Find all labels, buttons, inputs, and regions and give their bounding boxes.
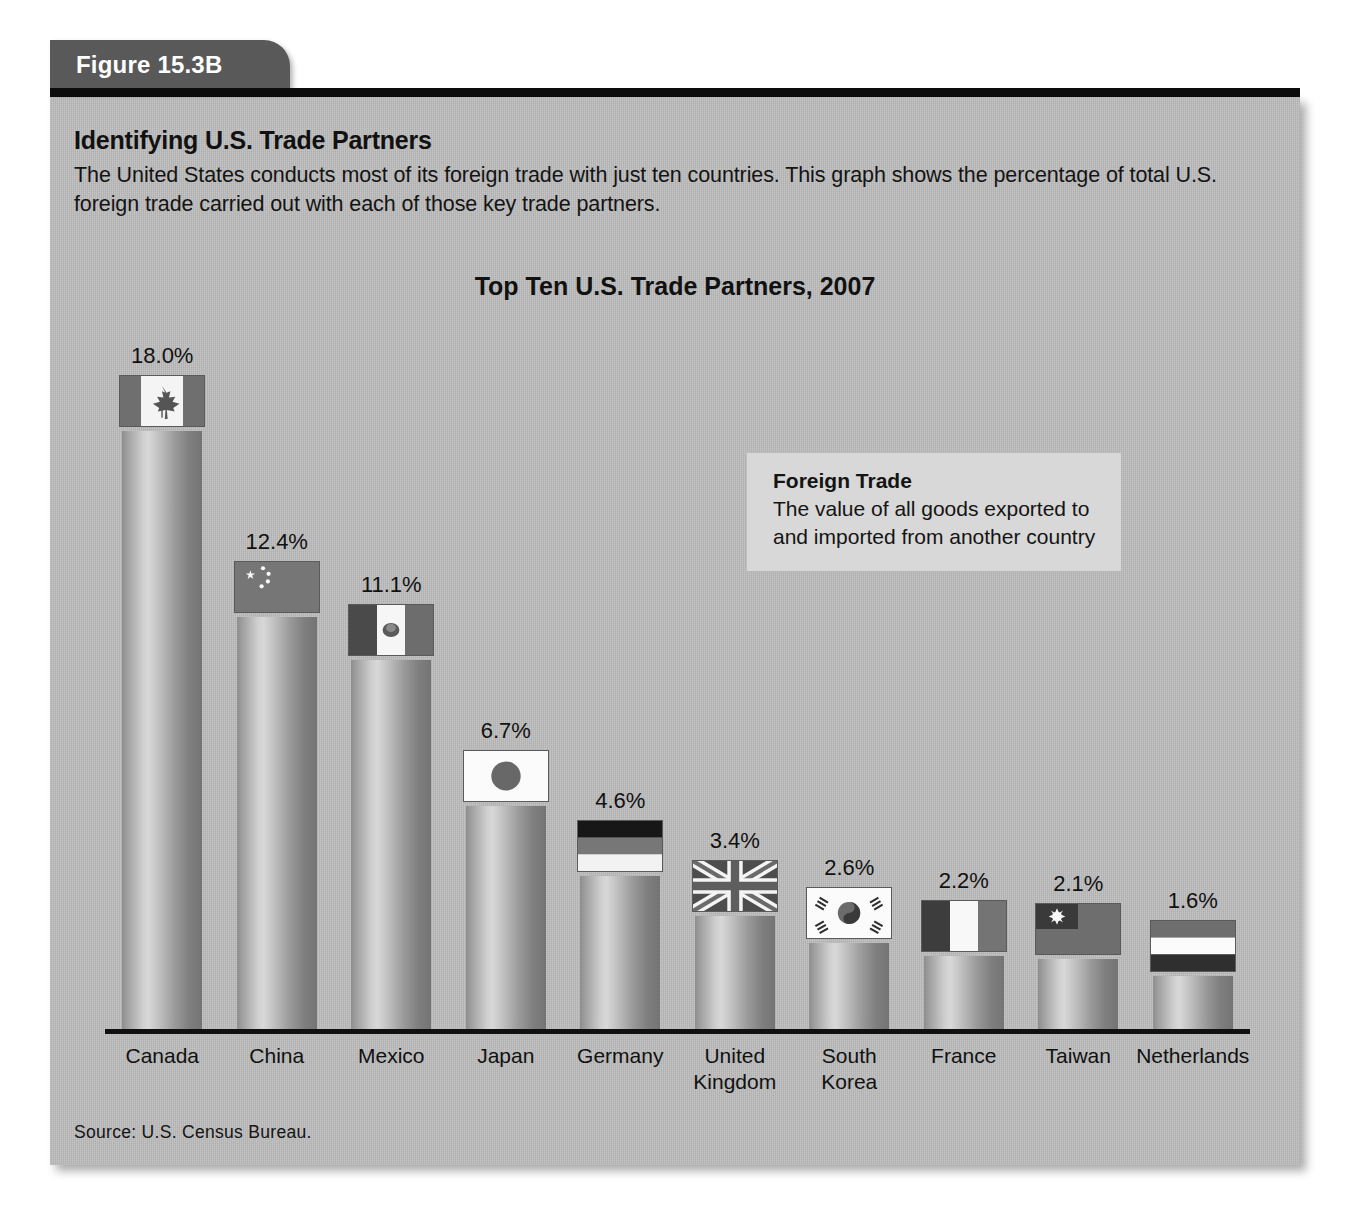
bar <box>1038 959 1118 1029</box>
bar <box>466 806 546 1029</box>
panel-title: Identifying U.S. Trade Partners <box>74 126 1254 155</box>
bar-group: 6.7% <box>461 716 551 1029</box>
bar-value-label: 2.1% <box>1021 871 1135 897</box>
flag-netherlands-icon <box>1150 920 1236 972</box>
flag-china-icon <box>234 561 320 613</box>
panel-heading: Identifying U.S. Trade Partners The Unit… <box>74 126 1254 220</box>
bar-chart-plot-area: 18.0%12.4%11.1%6.7%4.6%3.4%2.6%2.2%2.1%1… <box>105 319 1250 1034</box>
bar-group: 12.4% <box>232 527 322 1029</box>
bar-group: 11.1% <box>346 570 436 1029</box>
flag-taiwan-icon <box>1035 903 1121 955</box>
bar <box>237 617 317 1029</box>
figure-panel: Identifying U.S. Trade Partners The Unit… <box>50 97 1300 1165</box>
bar-value-label: 2.6% <box>792 855 906 881</box>
panel-description: The United States conducts most of its f… <box>74 161 1234 220</box>
bar <box>695 916 775 1029</box>
flag-canada-icon <box>119 375 205 427</box>
bar-value-label: 12.4% <box>220 529 334 555</box>
tick-label-line: Netherlands <box>1126 1043 1260 1069</box>
bar-group: 2.2% <box>919 866 1009 1029</box>
bar-group: 18.0% <box>117 341 207 1029</box>
bar <box>924 956 1004 1029</box>
bar-value-label: 1.6% <box>1136 888 1250 914</box>
bar <box>580 876 660 1029</box>
tick-label-line: Korea <box>782 1069 916 1095</box>
figure-divider-rule <box>50 88 1300 97</box>
definition-callout: Foreign Trade The value of all goods exp… <box>747 453 1121 571</box>
definition-text: The value of all goods exported to and i… <box>773 495 1099 551</box>
bar-group: 2.1% <box>1033 869 1123 1029</box>
bar <box>1153 976 1233 1029</box>
figure-number-label: Figure 15.3B <box>76 51 222 79</box>
definition-term: Foreign Trade <box>773 469 1099 493</box>
x-axis-tick-label: Netherlands <box>1126 1043 1260 1069</box>
bar-value-label: 3.4% <box>678 828 792 854</box>
bar-value-label: 2.2% <box>907 868 1021 894</box>
figure-root: Figure 15.3B Identifying U.S. Trade Part… <box>0 0 1347 1224</box>
chart-title: Top Ten U.S. Trade Partners, 2007 <box>50 272 1300 301</box>
flag-united-kingdom-icon <box>692 860 778 912</box>
bar-value-label: 11.1% <box>334 572 448 598</box>
flag-japan-icon <box>463 750 549 802</box>
bar <box>809 943 889 1029</box>
bar <box>122 431 202 1029</box>
figure-tab: Figure 15.3B <box>50 40 290 92</box>
flag-france-icon <box>921 900 1007 952</box>
flag-germany-icon <box>577 820 663 872</box>
bar-group: 2.6% <box>804 853 894 1029</box>
bar-group: 3.4% <box>690 826 780 1029</box>
flag-south-korea-icon <box>806 887 892 939</box>
bar-group: 1.6% <box>1148 886 1238 1029</box>
bar <box>351 660 431 1029</box>
source-note: Source: U.S. Census Bureau. <box>74 1122 312 1143</box>
flag-mexico-icon <box>348 604 434 656</box>
bar-value-label: 4.6% <box>563 788 677 814</box>
bar-value-label: 6.7% <box>449 718 563 744</box>
x-axis-line <box>105 1029 1250 1034</box>
bar-value-label: 18.0% <box>105 343 219 369</box>
bar-group: 4.6% <box>575 786 665 1029</box>
